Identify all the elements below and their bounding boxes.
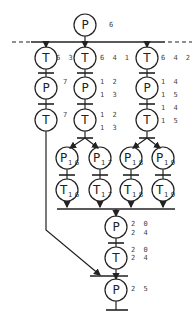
node-letter: T xyxy=(41,113,50,127)
label-7: 7 xyxy=(63,78,69,86)
node-letter: P xyxy=(81,81,88,95)
petri-net-diagram: P T T T P P P T T T P T P P 1 6 P 1 7 P … xyxy=(0,0,195,326)
label-line: 1 2 xyxy=(100,78,119,86)
node-letter: P xyxy=(42,81,49,95)
label-line: 1 5 xyxy=(161,117,180,125)
label-line: 2 0 xyxy=(131,246,150,254)
label-line: 1 5 xyxy=(161,91,180,99)
node-letter: P xyxy=(112,283,119,297)
node-subscript: 1 6 xyxy=(68,159,80,167)
node-letter: T xyxy=(111,251,120,265)
label-line: 2 0 xyxy=(131,220,150,228)
node-letter: P xyxy=(93,151,100,165)
label-line: 1 3 xyxy=(100,91,119,99)
top-place-letter: P xyxy=(81,18,88,32)
label-line: 2 4 xyxy=(131,229,150,237)
node-subscript: 1 9 xyxy=(164,191,175,199)
node-letter: P xyxy=(60,151,67,165)
node-subscript: 1 8 xyxy=(132,191,143,199)
node-letter: T xyxy=(155,183,164,197)
node-letter: T xyxy=(41,51,50,65)
label-6: 6 xyxy=(109,21,115,29)
node-subscript: 1 7 xyxy=(101,191,112,199)
node-subscript: 1 7 xyxy=(101,159,112,167)
node-letter: P xyxy=(156,151,163,165)
label-line: 2 4 xyxy=(131,254,150,262)
node-letter: T xyxy=(92,183,101,197)
label-642: 6 4 2 xyxy=(161,54,192,62)
label-63: 6 3 xyxy=(56,54,75,62)
node-letter: P xyxy=(143,81,150,95)
node-subscript: 1 9 xyxy=(164,159,175,167)
node-letter: T xyxy=(142,113,151,127)
node-subscript: 1 6 xyxy=(68,191,80,199)
node-letter: T xyxy=(80,51,89,65)
label-7b: 7 xyxy=(63,111,69,119)
node-letter: T xyxy=(142,51,151,65)
node-letter: P xyxy=(124,151,131,165)
label-line: 1 4 xyxy=(161,78,180,86)
label-25: 2 5 xyxy=(131,285,150,293)
node-letter: T xyxy=(59,183,68,197)
label-line: 1 3 xyxy=(100,124,119,132)
node-letter: T xyxy=(123,183,132,197)
node-letter: P xyxy=(112,220,119,234)
node-letter: T xyxy=(80,113,89,127)
label-line: 1 2 xyxy=(100,111,119,119)
bypass-arc xyxy=(46,131,100,275)
node-subscript: 1 8 xyxy=(132,159,143,167)
label-641: 6 4 1 xyxy=(100,54,131,62)
label-line: 1 4 xyxy=(161,104,180,112)
